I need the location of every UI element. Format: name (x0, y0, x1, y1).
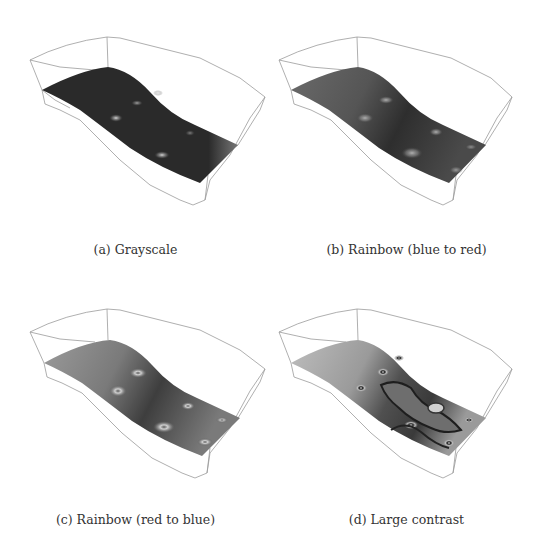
surface (42, 67, 238, 183)
surface-plot-rainbow-blue-to-red (271, 0, 542, 240)
surface (44, 340, 240, 456)
caption-d: (d) Large contrast (271, 512, 542, 527)
panel-a-grayscale: (a) Grayscale (0, 0, 271, 270)
surface (291, 67, 486, 183)
panel-b-rainbow-blue-to-red: (b) Rainbow (blue to red) (271, 0, 542, 270)
caption-c: (c) Rainbow (red to blue) (0, 512, 271, 527)
panel-d-large-contrast: (d) Large contrast (271, 270, 542, 555)
surface-plot-rainbow-red-to-blue (0, 270, 271, 510)
surface-plot-grayscale (0, 0, 271, 240)
surface-plot-large-contrast (271, 270, 542, 510)
surface (291, 340, 486, 456)
caption-b: (b) Rainbow (blue to red) (271, 242, 542, 257)
panel-c-rainbow-red-to-blue: (c) Rainbow (red to blue) (0, 270, 271, 555)
caption-a: (a) Grayscale (0, 242, 271, 257)
